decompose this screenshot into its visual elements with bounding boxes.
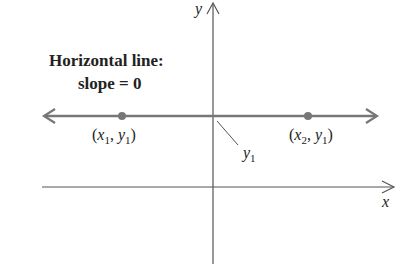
- title-line-2: slope = 0: [78, 74, 142, 93]
- intercept-label: y1: [241, 144, 256, 164]
- point-2-label: (x2, y1): [289, 126, 333, 146]
- title-line-1: Horizontal line:: [49, 51, 164, 70]
- horizontal-line-diagram: y x Horizontal line: slope = 0 (x1, y1) …: [0, 0, 406, 269]
- intercept-leader-line: [217, 121, 238, 145]
- y-axis-label: y: [193, 0, 203, 18]
- point-1-dot: [118, 112, 126, 120]
- point-2-dot: [304, 112, 312, 120]
- point-1-label: (x1, y1): [92, 126, 136, 146]
- x-axis-label: x: [381, 193, 389, 210]
